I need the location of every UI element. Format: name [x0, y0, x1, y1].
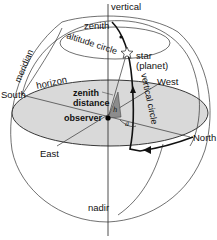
label-observer: observer	[64, 113, 103, 123]
observer-point	[105, 115, 110, 120]
label-a-angle: a	[125, 120, 129, 128]
label-zenith-distance-2: distance	[73, 98, 110, 108]
label-vertical: vertical	[111, 1, 141, 12]
celestial-sphere-diagram: vertical zenith altitude circle meridian…	[0, 0, 217, 240]
label-south: South	[1, 89, 26, 100]
label-zenith: zenith	[84, 20, 109, 31]
label-zenith-distance-1: zenith	[73, 88, 99, 98]
label-altitude-circle: altitude circle	[65, 30, 118, 56]
vertical-circle-arrow-left	[143, 146, 151, 154]
label-west: West	[157, 76, 179, 87]
label-meridian: meridian	[13, 48, 36, 84]
label-north: North	[193, 132, 216, 143]
vertical-circle-dot	[119, 35, 122, 38]
star-icon	[121, 47, 133, 58]
label-planet: (planet)	[136, 60, 168, 71]
lower-circle	[118, 144, 163, 215]
label-h-angle: h	[113, 106, 118, 114]
label-nadir: nadir	[88, 202, 109, 213]
label-east: East	[40, 148, 59, 159]
